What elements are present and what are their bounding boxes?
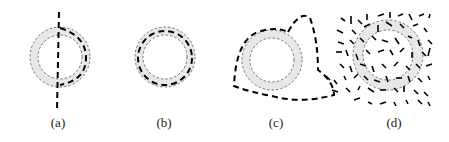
vertical-dashed-line [57,12,59,110]
panel-label-a: (a) [51,115,65,130]
ring-inner-edge [363,30,413,80]
panel-a: (a) [30,12,90,130]
panel-d: (d) [326,12,432,130]
panel-c: (c) [234,16,334,130]
figure-canvas: (a) (b) (c) [0,0,449,142]
ring-inner-edge [250,38,294,82]
ring-inner-edge [38,35,82,79]
panel-b: (b) [135,27,195,130]
panel-label-d: (d) [386,115,401,130]
ring-band [358,25,418,85]
panel-label-c: (c) [269,115,283,130]
ring-band [139,31,191,83]
ring-band [246,34,298,86]
panel-label-b: (b) [156,115,171,130]
ring-inner-edge [143,35,187,79]
